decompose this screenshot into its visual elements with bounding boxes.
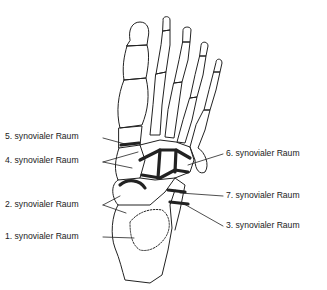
hallux-bones xyxy=(118,22,149,128)
label-synovial-space-4: 4. synovialer Raum xyxy=(5,155,79,165)
label-synovial-space-6: 6. synovialer Raum xyxy=(226,148,300,158)
toe-3-bones xyxy=(165,27,191,138)
label-synovial-space-2: 2. synovialer Raum xyxy=(5,199,79,209)
leader-lines xyxy=(103,138,223,238)
label-synovial-space-5: 5. synovialer Raum xyxy=(5,131,79,141)
label-synovial-space-3: 3. synovialer Raum xyxy=(226,220,300,230)
label-synovial-space-7: 7. synovialer Raum xyxy=(226,190,300,200)
synovial-spaces xyxy=(120,143,190,204)
talus-dotted-outline xyxy=(130,210,169,251)
label-synovial-space-1: 1. synovialer Raum xyxy=(5,231,79,241)
toe-4-bones xyxy=(177,42,208,143)
foot-skeleton-diagram xyxy=(0,0,327,290)
